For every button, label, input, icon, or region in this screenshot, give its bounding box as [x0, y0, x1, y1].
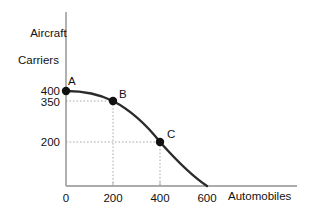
x-tick-label-0: 0	[49, 192, 83, 204]
data-point-b	[109, 97, 117, 105]
x-tick-label-200: 200	[96, 192, 130, 204]
x-tick-label-400: 400	[143, 192, 177, 204]
data-point-c	[156, 138, 164, 146]
point-label-c: C	[167, 128, 175, 140]
point-label-b: B	[119, 88, 127, 100]
y-tick-label-200: 200	[28, 136, 60, 148]
ppf-chart: Aircraft Carriers Automobiles 400 350 20…	[0, 0, 309, 216]
ppf-curve	[66, 91, 207, 186]
y-axis-title: Aircraft Carriers	[18, 13, 67, 94]
y-tick-label-350: 350	[28, 96, 60, 108]
point-label-a: A	[68, 75, 76, 87]
x-axis-title: Automobiles	[228, 190, 291, 204]
y-axis-title-line2: Carriers	[18, 54, 67, 68]
y-axis-title-line1: Aircraft	[30, 27, 66, 39]
x-tick-label-600: 600	[190, 192, 224, 204]
